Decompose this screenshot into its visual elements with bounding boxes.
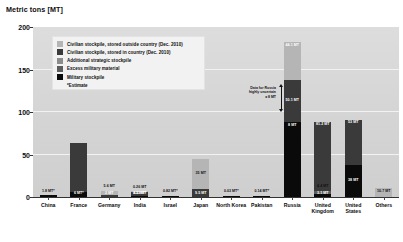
x-tick-mark	[48, 197, 49, 200]
bar-value-label: 38 MT	[348, 179, 358, 183]
legend-swatch	[57, 49, 63, 55]
legend-swatch	[57, 74, 63, 80]
x-tick-mark	[109, 197, 110, 200]
legend: Civilian stockpile, stored outside count…	[52, 36, 205, 90]
legend-item: Military stockpile	[57, 73, 200, 81]
bar-stack: 35 MT9.5 MT	[192, 159, 209, 197]
x-axis-label: Pakistan	[247, 203, 278, 209]
x-axis-label: Japan	[186, 203, 217, 209]
legend-item: Civilian stockpile, stored in country (D…	[57, 48, 200, 56]
x-axis-label: Others	[369, 203, 400, 209]
legend-label: Military stockpile	[67, 75, 104, 80]
bar-value-label: 9.5 MT	[195, 192, 206, 196]
bar-segment: 10.7 MT	[375, 188, 392, 197]
bar-value-label: 0.26 MT	[133, 186, 146, 190]
x-axis-label: France	[64, 203, 95, 209]
y-tick-label: 150	[4, 66, 30, 73]
x-axis-label: United States	[338, 203, 369, 215]
x-tick-mark	[201, 197, 202, 200]
bar-value-label: 81.2 MT	[316, 123, 329, 127]
bar-stack: 10.7 MT	[375, 188, 392, 197]
x-tick-mark	[170, 197, 171, 200]
bar-value-label: 44.1 MT	[286, 44, 299, 48]
x-tick-mark	[353, 197, 354, 200]
legend-label: Civilian stockpile, stored outside count…	[67, 42, 183, 47]
bar-value-label: 8 MT	[288, 124, 296, 128]
bar-segment: 44.1 MT	[284, 42, 301, 79]
legend-swatch	[57, 58, 63, 64]
legend-swatch	[57, 41, 63, 47]
legend-item: Excess military material	[57, 65, 200, 73]
bar-segment: 53 MT	[345, 120, 362, 165]
bar-value-label: 50.1 MT	[286, 99, 299, 103]
legend-label: Additional strategic stockpile	[67, 58, 131, 63]
bar-stack: 81.2 MT4.4 MT3.1 MT	[314, 122, 331, 197]
bar-stack: 44.1 MT50.1 MT8 MT	[284, 42, 301, 197]
gridline	[33, 111, 399, 112]
y-tick-mark	[30, 112, 33, 113]
bar-value-label: 3.1 MT	[317, 192, 328, 196]
y-tick-label: 50	[4, 151, 30, 158]
y-tick-mark	[30, 155, 33, 156]
bar-stack: 6 MT*	[70, 143, 87, 197]
bar-segment: 50.1 MT	[284, 80, 301, 123]
bar-segment: 38 MT	[345, 165, 362, 197]
bar-value-label: 10.7 MT	[377, 190, 390, 194]
x-axis-label: India	[125, 203, 156, 209]
bar-value-label: 0.03 MT*	[224, 190, 239, 194]
legend-label: Civilian stockpile, stored in country (D…	[67, 50, 170, 55]
bar-stack: 53 MT38 MT	[345, 120, 362, 197]
bar-segment: 8 MT	[284, 122, 301, 197]
uncertainty-arrow-icon	[278, 84, 284, 112]
bar-value-label: 2 MT	[105, 192, 113, 196]
legend-item: Civilian stockpile, stored outside count…	[57, 40, 200, 48]
annotation-line: ± 8 MT	[236, 95, 276, 99]
bar-value-label: 6 MT*	[74, 192, 84, 196]
y-axis-title: Metric tons [MT]	[6, 5, 63, 14]
x-tick-mark	[323, 197, 324, 200]
legend-label: Excess military material	[67, 66, 119, 71]
x-axis-label: China	[33, 203, 64, 209]
bar-value-label: 5.6 MT	[104, 185, 115, 189]
bar-value-label: 0.52 MT	[133, 192, 146, 196]
bar-segment	[70, 143, 87, 191]
x-axis-label: Israel	[155, 203, 186, 209]
y-tick-mark	[30, 70, 33, 71]
bar-segment: 9.5 MT	[192, 189, 209, 197]
x-tick-mark	[292, 197, 293, 200]
x-tick-mark	[140, 197, 141, 200]
bar-value-label: 0.14 MT*	[254, 190, 269, 194]
bar-value-label: 35 MT	[196, 172, 206, 176]
plutonium-stockpile-chart: Metric tons [MT] 1.8 MT*6 MT*5.6 MT2 MT0…	[0, 0, 403, 242]
bar-segment: 81.2 MT	[314, 122, 331, 191]
bar-value-label: 1.8 MT*	[42, 190, 55, 194]
bar-value-label: 4.4 MT	[317, 185, 328, 189]
legend-estimate-note: *Estimate	[67, 83, 200, 88]
bar-value-label: 53 MT	[348, 121, 358, 125]
y-tick-mark	[30, 27, 33, 28]
x-tick-mark	[384, 197, 385, 200]
bar-segment: 35 MT	[192, 159, 209, 189]
x-tick-mark	[79, 197, 80, 200]
y-tick-label: 200	[4, 24, 30, 31]
legend-swatch	[57, 66, 63, 72]
x-axis-label: North Korea	[216, 203, 247, 209]
legend-item: Additional strategic stockpile	[57, 57, 200, 65]
russia-uncertainty-annotation: Data for Russiahighly uncertain± 8 MT	[236, 86, 276, 99]
y-tick-label: 100	[4, 109, 30, 116]
bar-value-label: 0.82 MT*	[163, 190, 178, 194]
x-tick-mark	[231, 197, 232, 200]
y-tick-label: 0	[4, 194, 30, 201]
x-tick-mark	[262, 197, 263, 200]
x-axis-line	[33, 197, 399, 198]
x-axis-label: Germany	[94, 203, 125, 209]
x-axis-label: Russia	[277, 203, 308, 209]
x-axis-label: United Kingdom	[308, 203, 339, 215]
